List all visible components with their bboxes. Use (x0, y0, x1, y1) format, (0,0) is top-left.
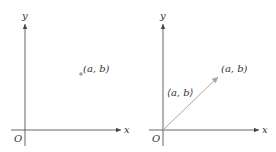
left-x-axis-label: x (124, 124, 130, 135)
left-point-label: (a, b) (83, 63, 110, 74)
right-x-axis-label: x (262, 124, 268, 135)
right-panel: x y O (a, b) ⟨a, b⟩ (149, 10, 268, 146)
left-panel: x y O (a, b) (11, 10, 130, 146)
diagram-canvas: x y O (a, b) x y O (a, b) ⟨a, b⟩ (0, 0, 276, 152)
right-origin-label: O (152, 133, 160, 144)
left-origin-label: O (14, 133, 22, 144)
left-y-axis-label: y (21, 10, 28, 21)
right-point-label: (a, b) (221, 63, 248, 74)
vector-label: ⟨a, b⟩ (167, 87, 194, 98)
right-y-axis-label: y (159, 10, 166, 21)
position-vector-arrow (163, 77, 218, 130)
